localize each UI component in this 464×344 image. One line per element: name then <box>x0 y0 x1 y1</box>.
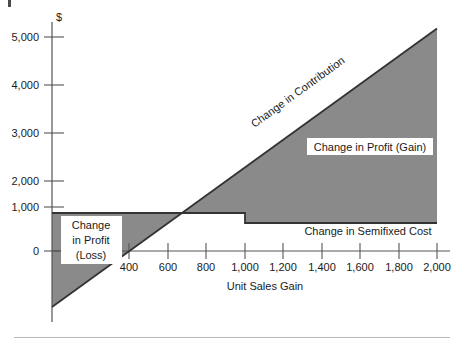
annotation-change-in-profit-loss: Change in Profit (Loss) <box>61 216 122 264</box>
chart-figure: 5,000 4,000 3,000 2,000 1,000 0 $ 400 60… <box>0 0 464 344</box>
annotation-change-in-profit-gain-label: Change in Profit (Gain) <box>314 141 427 153</box>
x-tick-label-1000: 1,000 <box>231 261 259 273</box>
annotation-loss-line-3: (Loss) <box>76 249 107 261</box>
x-tick-label-600: 600 <box>159 261 177 273</box>
x-tick-label-1600: 1,600 <box>346 261 374 273</box>
annotation-loss-line-1: Change <box>72 219 111 231</box>
x-tick-label-2000: 2,000 <box>423 261 451 273</box>
x-tick-label-1800: 1,800 <box>385 261 413 273</box>
y-tick-label-4000: 4,000 <box>11 79 39 91</box>
bottom-divider <box>14 337 450 338</box>
x-tick-label-1400: 1,400 <box>308 261 336 273</box>
annotation-change-in-semifixed-cost: Change in Semifixed Cost <box>304 225 431 237</box>
x-tick-label-400: 400 <box>120 261 138 273</box>
annotation-change-in-profit-gain: Change in Profit (Gain) <box>307 138 433 155</box>
y-tick-label-2000: 2,000 <box>11 175 39 187</box>
x-tick-label-800: 800 <box>197 261 215 273</box>
profit-gain-region <box>182 29 437 224</box>
x-axis-title: Unit Sales Gain <box>227 280 303 292</box>
y-tick-label-3000: 3,000 <box>11 127 39 139</box>
x-tick-label-1200: 1,200 <box>269 261 297 273</box>
y-tick-label-1000: 1,000 <box>11 201 39 213</box>
y-tick-label-0: 0 <box>33 245 39 257</box>
y-tick-label-5000: 5,000 <box>11 31 39 43</box>
annotation-loss-line-2: in Profit <box>72 234 109 246</box>
profit-graph: 5,000 4,000 3,000 2,000 1,000 0 $ 400 60… <box>0 0 464 344</box>
y-axis-unit-label: $ <box>56 11 62 23</box>
